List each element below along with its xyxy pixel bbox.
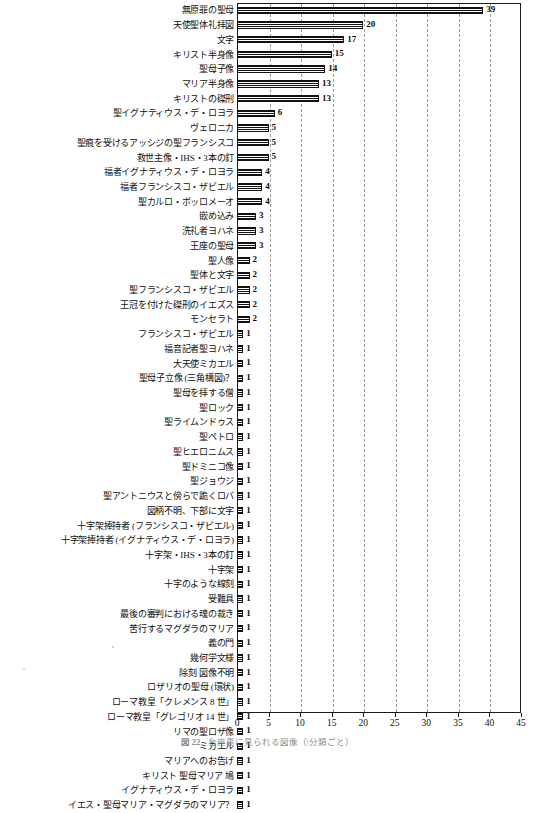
bar <box>237 154 269 161</box>
bar-value-label: 3 <box>259 210 264 221</box>
bar-cell: 1 <box>236 695 535 710</box>
bar-row: キリスト 聖母マリア 鳩1 <box>0 768 535 783</box>
category-label: 無原罪の聖母 <box>4 5 236 15</box>
bar-cell: 1 <box>236 798 535 813</box>
bar-cell: 1 <box>236 327 535 342</box>
bar <box>237 669 243 676</box>
bar-row: 聖ヒエロニムス1 <box>0 445 535 460</box>
category-label: フランシスコ・ザビエル <box>4 329 236 339</box>
bar-value-label: 1 <box>246 755 251 766</box>
bar-value-label: 1 <box>246 519 251 530</box>
bar-value-label: 1 <box>246 460 251 471</box>
bar-cell: 4 <box>236 194 535 209</box>
bar-value-label: 1 <box>246 593 251 604</box>
bar-value-label: 15 <box>335 48 344 59</box>
bar-value-label: 4 <box>265 166 270 177</box>
bar-cell: 5 <box>236 150 535 165</box>
figure-caption-text: 台座裏に見られる図像（৷分類ごと） <box>208 737 354 747</box>
bar <box>237 257 250 264</box>
bar-cell: 1 <box>236 651 535 666</box>
bar-row: 十字架・IHS・3本の釘1 <box>0 548 535 563</box>
category-label: モンセラト <box>4 314 236 324</box>
bar <box>237 7 483 14</box>
bar-value-label: 2 <box>253 313 258 324</box>
bar-value-label: 3 <box>259 225 264 236</box>
bar <box>237 345 243 352</box>
bar-value-label: 1 <box>246 446 251 457</box>
category-label: 洗礼者ヨハネ <box>4 226 236 236</box>
bar-value-label: 1 <box>246 431 251 442</box>
bar-row: 十字架捧持者 (フランシスコ・ザビエル)1 <box>0 518 535 533</box>
x-tick-25 <box>395 713 396 717</box>
bar <box>237 272 250 279</box>
category-label: 聖カルロ・ボッロメーオ <box>4 197 236 207</box>
category-label: 福者フランシスコ・ザビエル <box>4 182 236 192</box>
bar <box>237 198 262 205</box>
bar-row: 義の門1 <box>0 636 535 651</box>
bar-cell: 1 <box>236 356 535 371</box>
bar-cell: 2 <box>236 268 535 283</box>
bar-cell: 1 <box>236 636 535 651</box>
bar-row: 聖ペトロ1 <box>0 430 535 445</box>
bar-cell: 1 <box>236 503 535 518</box>
bar-row: 最後の審判における魂の裁き1 <box>0 606 535 621</box>
category-label: キリスト 聖母マリア 鳩 <box>4 771 236 781</box>
x-tick-15 <box>332 713 333 717</box>
bar-row: 十字のような線刻1 <box>0 577 535 592</box>
bar-value-label: 1 <box>246 622 251 633</box>
bar <box>237 684 243 691</box>
bar-value-label: 1 <box>246 343 251 354</box>
category-label: 図柄不明、下部に文字 <box>4 506 236 516</box>
bar-row: ヴェロニカ5 <box>0 121 535 136</box>
category-label: 聖体と文字 <box>4 270 236 280</box>
bar-cell: 2 <box>236 283 535 298</box>
x-axis: 051015202530354045 <box>237 713 521 735</box>
bar-value-label: 6 <box>278 107 283 118</box>
x-tick-label-45: 45 <box>516 718 526 729</box>
bar-value-label: 1 <box>246 696 251 707</box>
bar-cell: 1 <box>236 415 535 430</box>
x-tick-label-0: 0 <box>235 718 240 729</box>
bar-row: 大天使ミカエル1 <box>0 356 535 371</box>
category-label: 福者イグナティウス・デ・ロヨラ <box>4 167 236 177</box>
bar-cell: 1 <box>236 371 535 386</box>
bar-cell: 1 <box>236 592 535 607</box>
bar <box>237 566 243 573</box>
bar-row: 受難具1 <box>0 592 535 607</box>
bar <box>237 36 344 43</box>
category-label: 大天使ミカエル <box>4 359 236 369</box>
bar-value-label: 1 <box>246 681 251 692</box>
bar-row: 福音記者聖ヨハネ1 <box>0 342 535 357</box>
bar-cell: 5 <box>236 121 535 136</box>
category-label: 聖アントニウスと傍らで跪くロバ <box>4 491 236 501</box>
bar-cell: 17 <box>236 32 535 47</box>
category-label: イグナティウス・デ・ロヨラ <box>4 785 236 795</box>
bar-value-label: 1 <box>246 505 251 516</box>
bar-row: 聖痕を受けるアッシジの聖フランシスコ5 <box>0 135 535 150</box>
bar <box>237 389 243 396</box>
bar-cell: 39 <box>236 3 535 18</box>
bar <box>237 433 243 440</box>
category-label: 幾何学文様 <box>4 653 236 663</box>
bar-value-label: 5 <box>272 151 277 162</box>
bar <box>237 301 250 308</box>
bar-value-label: 1 <box>246 799 251 810</box>
bar-cell: 14 <box>236 62 535 77</box>
bar <box>237 80 319 87</box>
category-label: 聖フランシスコ・ザビエル <box>4 285 236 295</box>
bar <box>237 316 250 323</box>
bar-cell: 13 <box>236 77 535 92</box>
category-label: 聖母子像 <box>4 64 236 74</box>
bar-value-label: 5 <box>272 122 277 133</box>
bar-row: マリア半身像13 <box>0 77 535 92</box>
bar-cell: 1 <box>236 445 535 460</box>
x-tick-40 <box>489 713 490 717</box>
bar-row: 聖ドミニコ像1 <box>0 459 535 474</box>
bar-value-label: 17 <box>347 34 356 45</box>
bar-row: キリスト半身像15 <box>0 47 535 62</box>
category-label: 十字架 <box>4 565 236 575</box>
category-label: 受難具 <box>4 594 236 604</box>
figure-caption: 図 22台座裏に見られる図像（৷分類ごと） <box>0 737 535 747</box>
bar-row: マリアへのお告げ1 <box>0 754 535 769</box>
bar-value-label: 14 <box>328 63 337 74</box>
